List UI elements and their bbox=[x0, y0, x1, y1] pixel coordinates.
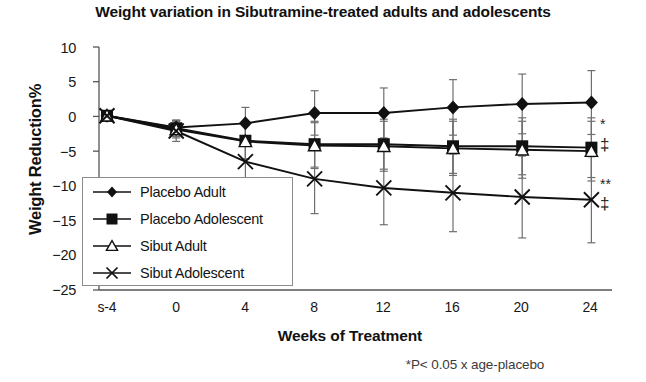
y-tick-label: 10 bbox=[30, 40, 76, 56]
x-tick-label: 4 bbox=[223, 299, 267, 315]
legend-item-placebo-adolescent: Placebo Adolescent bbox=[91, 206, 263, 232]
x-tick-label: 16 bbox=[430, 299, 474, 315]
y-tick-label: −20 bbox=[30, 247, 76, 263]
x-tick-label: 12 bbox=[361, 299, 405, 315]
legend-item-sibut-adolescent: Sibut Adolescent bbox=[91, 260, 244, 286]
x-tick-label: s-4 bbox=[85, 299, 129, 315]
y-tick-label: 0 bbox=[30, 109, 76, 125]
chart-figure: Weight variation in Sibutramine-treated … bbox=[0, 0, 646, 382]
y-tick-label: −10 bbox=[30, 178, 76, 194]
legend-item-placebo-adult: Placebo Adult bbox=[91, 179, 225, 205]
significance-double-star: ** bbox=[600, 177, 611, 191]
chart-title: Weight variation in Sibutramine-treated … bbox=[0, 3, 646, 21]
legend-label: Sibut Adolescent bbox=[140, 265, 244, 281]
legend-label: Sibut Adult bbox=[140, 238, 207, 254]
legend-item-sibut-adult: Sibut Adult bbox=[91, 233, 207, 259]
legend-marker-triangle-icon bbox=[91, 237, 133, 255]
y-tick-label: −15 bbox=[30, 213, 76, 229]
chart-legend: Placebo Adult Placebo Adolescent Sibut A… bbox=[82, 177, 293, 286]
legend-marker-square-icon bbox=[91, 210, 133, 228]
y-tick-label: 5 bbox=[30, 74, 76, 90]
legend-marker-cross-icon bbox=[91, 264, 133, 282]
x-axis-title: Weeks of Treatment bbox=[100, 327, 600, 345]
x-tick-label: 24 bbox=[568, 299, 612, 315]
x-tick-label: 20 bbox=[499, 299, 543, 315]
x-tick-label: 8 bbox=[292, 299, 336, 315]
y-tick-label: −5 bbox=[30, 144, 76, 160]
significance-star: * bbox=[600, 117, 605, 131]
legend-label: Placebo Adult bbox=[140, 184, 225, 200]
chart-footnote: *P< 0.05 x age-placebo bbox=[310, 357, 640, 372]
y-tick-label: −25 bbox=[30, 282, 76, 298]
significance-dagger-2: ‡ bbox=[600, 195, 609, 212]
significance-dagger: ‡ bbox=[600, 136, 609, 153]
x-tick-label: 0 bbox=[154, 299, 198, 315]
legend-label: Placebo Adolescent bbox=[140, 211, 263, 227]
legend-marker-diamond-icon bbox=[91, 183, 133, 201]
